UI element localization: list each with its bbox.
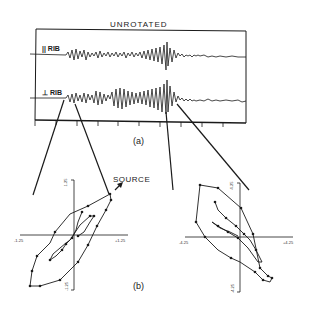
trace-parallel-rib bbox=[30, 42, 246, 70]
right-x-min-tick: -4.25 bbox=[179, 240, 188, 245]
right-y-min-tick: -4.25 bbox=[230, 284, 235, 293]
trace-perpendicular-rib bbox=[30, 80, 246, 114]
hodogram-right bbox=[185, 183, 293, 292]
right-x-max-tick: +4.25 bbox=[283, 240, 293, 245]
trace-label-parallel: || RIB bbox=[42, 45, 60, 52]
left-x-min-tick: -1.25 bbox=[14, 238, 23, 243]
caption-a: (a) bbox=[133, 136, 144, 146]
caption-b: (b) bbox=[133, 281, 144, 291]
panel-a-title: UNROTATED bbox=[110, 20, 168, 29]
left-x-max-tick: +1.25 bbox=[115, 238, 125, 243]
right-y-max-tick: 4.25 bbox=[229, 182, 234, 190]
seismogram-panel bbox=[30, 29, 249, 195]
hodogram-left bbox=[20, 180, 128, 290]
source-annotation: SOURCE bbox=[113, 175, 150, 184]
left-y-min-tick: -1.25 bbox=[64, 282, 69, 291]
trace-label-perpendicular: ⊥ RIB bbox=[42, 89, 62, 97]
left-y-max-tick: 1.25 bbox=[63, 179, 68, 187]
